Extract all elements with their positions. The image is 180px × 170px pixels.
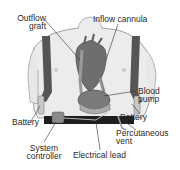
lvad-diagram: Outflow graft Inflow cannula Blood pump … xyxy=(0,0,180,170)
label-percutaneous-vent: Percutaneous vent xyxy=(116,129,168,145)
label-outflow-graft: Outflow graft xyxy=(6,14,46,30)
label-battery-right: Battery xyxy=(120,113,147,121)
battery-left-shape xyxy=(38,96,44,114)
label-inflow-cannula: Inflow cannula xyxy=(93,15,147,23)
outflow-graft-tube xyxy=(80,50,82,100)
label-electrical-lead: Electrical lead xyxy=(73,151,126,159)
label-system-controller: System controller xyxy=(22,144,66,160)
label-blood-pump: Blood pump xyxy=(138,87,160,103)
label-battery-left: Battery xyxy=(12,118,39,126)
system-controller-shape xyxy=(52,112,64,123)
